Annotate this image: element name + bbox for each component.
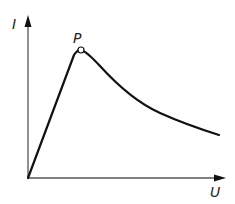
characteristic-curve [28, 50, 219, 178]
x-axis-arrow-icon [214, 175, 226, 182]
peak-point-marker [78, 47, 84, 53]
peak-label: P [73, 30, 82, 46]
iu-diagram: I P U [0, 0, 235, 204]
y-axis-label: I [12, 16, 16, 32]
y-axis-arrow-icon [25, 15, 32, 27]
x-axis-label: U [210, 184, 220, 200]
